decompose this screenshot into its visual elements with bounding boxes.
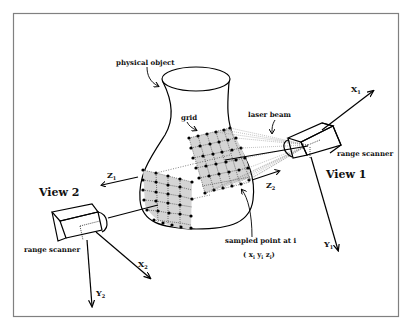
label-z1: Z1 (107, 170, 116, 181)
label-x2: X2 (138, 259, 148, 270)
range-scanner-1 (284, 123, 341, 158)
label-range-scanner-1: range scanner (337, 149, 393, 158)
range-scanning-diagram: physical object grid laser beam range sc… (0, 0, 409, 327)
laser-beam-pointer (272, 120, 275, 133)
label-sampled-coordinates: ( xi yi zi) (243, 250, 275, 260)
x2-axis (96, 232, 150, 278)
label-view-1: View 1 (325, 168, 366, 181)
grid-pointer (187, 122, 196, 130)
label-sampled-point: sampled point at i (225, 236, 296, 245)
diagram-canvas: physical object grid laser beam range sc… (0, 0, 409, 327)
label-physical-object: physical object (116, 58, 175, 67)
label-y2: Y2 (95, 288, 106, 299)
svg-text:( xi yi zi): ( xi yi zi) (243, 250, 275, 260)
label-range-scanner-2: range scanner (24, 245, 80, 254)
label-z2: Z2 (266, 180, 276, 191)
physical-object-pointer (147, 67, 158, 86)
x1-axis (322, 91, 373, 130)
z2-axis (252, 171, 279, 180)
grid-patch-view1 (187, 126, 250, 194)
label-x1: X1 (351, 84, 361, 95)
label-grid: grid (181, 113, 197, 122)
label-laser-beam: laser beam (248, 110, 292, 119)
label-view-2: View 2 (38, 186, 79, 199)
range-scanner-2 (52, 204, 107, 241)
y2-axis (87, 240, 92, 306)
label-y1: Y1 (323, 239, 333, 250)
sampled-point-pointer (242, 190, 252, 237)
